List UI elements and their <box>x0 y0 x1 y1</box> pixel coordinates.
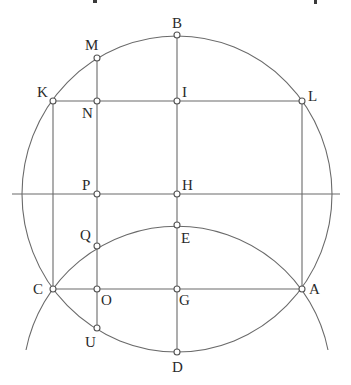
label-H: H <box>182 177 193 193</box>
point-I <box>174 98 180 104</box>
point-U <box>94 325 100 331</box>
label-Q: Q <box>80 227 91 243</box>
label-B: B <box>172 15 182 31</box>
point-N <box>94 98 100 104</box>
top-text-fragments <box>93 0 317 4</box>
point-D <box>174 349 180 355</box>
point-M <box>94 55 100 61</box>
point-L <box>299 98 305 104</box>
point-P <box>94 191 100 197</box>
point-O <box>94 286 100 292</box>
label-E: E <box>181 230 190 246</box>
label-L: L <box>308 88 317 104</box>
label-N: N <box>82 105 93 121</box>
point-H <box>174 191 180 197</box>
point-E <box>174 222 180 228</box>
point-K <box>50 98 56 104</box>
point-B <box>174 32 180 38</box>
point-Q <box>94 243 100 249</box>
label-D: D <box>172 359 183 375</box>
label-K: K <box>37 84 48 100</box>
label-U: U <box>85 334 96 350</box>
label-P: P <box>82 177 90 193</box>
point-A <box>299 286 305 292</box>
label-O: O <box>101 292 112 308</box>
label-I: I <box>182 84 187 100</box>
geometric-diagram: BMKNILPHQECOGAUD <box>0 0 351 385</box>
label-M: M <box>85 37 98 53</box>
point-C <box>50 286 56 292</box>
label-C: C <box>33 281 43 297</box>
label-G: G <box>179 292 190 308</box>
label-A: A <box>309 281 320 297</box>
